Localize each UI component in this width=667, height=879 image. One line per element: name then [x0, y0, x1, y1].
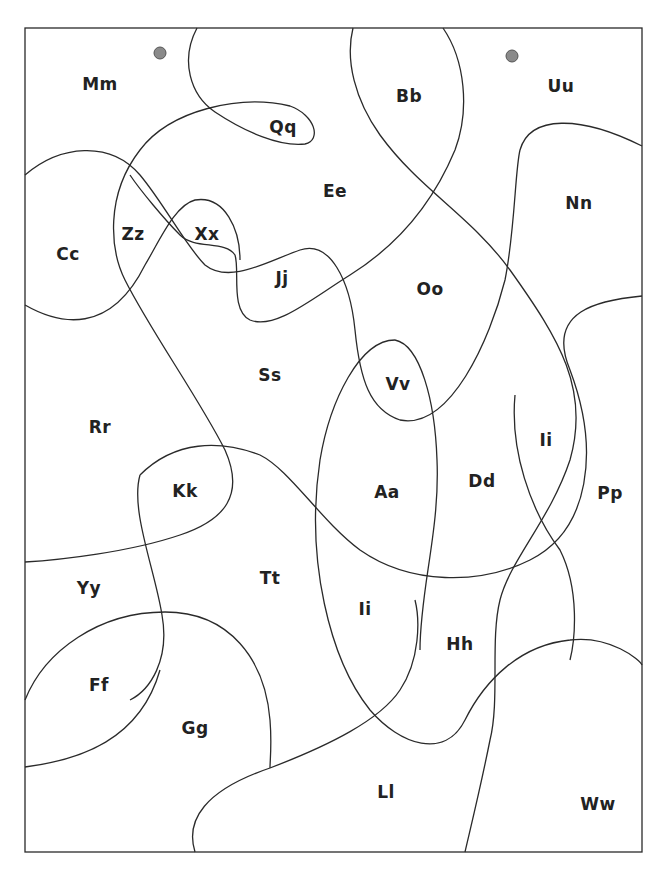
region-label-ii-right: Ii [539, 430, 552, 450]
region-label-bb: Bb [396, 86, 422, 106]
region-label-kk: Kk [172, 481, 197, 501]
letter-region-worksheet: Mm Qq Bb Uu Ee Nn Cc Zz Xx Jj Oo Ss Vv R… [0, 0, 667, 879]
region-label-oo: Oo [416, 279, 443, 299]
region-boundaries [0, 0, 667, 879]
region-label-nn: Nn [565, 193, 592, 213]
curve-kk-dd [140, 296, 642, 578]
region-label-yy: Yy [77, 578, 101, 598]
curve-vv-aa [316, 340, 642, 744]
region-label-ff: Ff [89, 675, 109, 695]
region-label-dd: Dd [468, 471, 495, 491]
region-label-aa: Aa [374, 482, 400, 502]
region-label-uu: Uu [548, 76, 575, 96]
region-label-jj: Jj [275, 268, 288, 288]
region-label-tt: Tt [260, 568, 281, 588]
marker-dot-left [154, 47, 167, 60]
region-label-mm: Mm [82, 74, 118, 94]
curve-gg-ll [193, 600, 418, 852]
region-label-rr: Rr [89, 417, 111, 437]
region-label-hh: Hh [446, 634, 473, 654]
region-label-ss: Ss [258, 365, 281, 385]
region-label-cc: Cc [56, 244, 80, 264]
region-label-zz: Zz [121, 224, 144, 244]
region-label-ww: Ww [580, 794, 615, 814]
region-label-xx: Xx [194, 224, 219, 244]
marker-dot-right [506, 50, 519, 63]
curve-ff-gg [25, 612, 271, 768]
curve-bb-right [130, 28, 464, 322]
region-label-ii-center: Ii [358, 599, 371, 619]
region-label-ee: Ee [323, 181, 347, 201]
region-label-gg: Gg [181, 718, 208, 738]
region-label-vv: Vv [385, 374, 410, 394]
region-label-pp: Pp [597, 483, 623, 503]
region-label-qq: Qq [269, 117, 297, 137]
region-label-ll: Ll [377, 782, 395, 802]
curve-cc [25, 123, 642, 421]
curve-qq-loop [25, 28, 314, 562]
curve-kk-lower [130, 475, 164, 700]
